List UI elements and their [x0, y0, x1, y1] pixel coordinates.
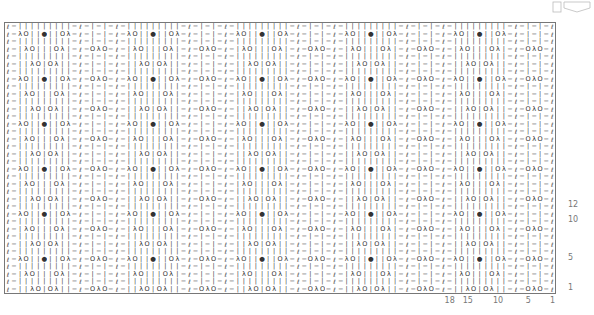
chart-row-9: ℓ−|λO|||Oλ|−ℓ−OλO−ℓ−|λO|||Oλ|−ℓ−OλO−ℓ−|λ…: [5, 226, 555, 234]
column-label: 10: [493, 296, 503, 305]
stitch-L: ℓ: [549, 23, 555, 31]
chart-row-20: ℓ−|||||||||−ℓ−|−|−ℓ−|||||||||−ℓ−|−|−ℓ−||…: [5, 143, 555, 151]
stitch-L: ℓ: [549, 53, 555, 61]
stitch-L: ℓ: [549, 278, 555, 286]
chart-row-19: ℓ−||λO|Oλ||−ℓ−|−|−ℓ−||λO|Oλ||−ℓ−|−|−ℓ−||…: [5, 151, 555, 159]
row-label: 5: [568, 253, 573, 262]
column-label: 5: [526, 296, 531, 305]
chart-row-4: ℓ−|||||||||−ℓ−|−|−ℓ−|||||||||−ℓ−|−|−ℓ−||…: [5, 263, 555, 271]
stitch-L: ℓ: [549, 256, 555, 264]
chart-row-24: ℓ−|||||||||−ℓ−|−|−ℓ−|||||||||−ℓ−|−|−ℓ−||…: [5, 113, 555, 121]
row-label: 1: [568, 283, 573, 292]
stitch-L: ℓ: [549, 143, 555, 151]
chart-row-17: ℓ−λO||●||Oλ−ℓ−OλO−ℓ−λO||●||Oλ−ℓ−OλO−ℓ−λO…: [5, 166, 555, 174]
chart-row-18: ℓ−|||||||||−ℓ−|−|−ℓ−|||||||||−ℓ−|−|−ℓ−||…: [5, 158, 555, 166]
chart-row-36: ℓ−|||||||||−ℓ−|−|−ℓ−|||||||||−ℓ−|−|−ℓ−||…: [5, 23, 555, 31]
chart-row-34: ℓ−|||||||||−ℓ−|−|−ℓ−|||||||||−ℓ−|−|−ℓ−||…: [5, 38, 555, 46]
chart-row-35: ℓ−λO||●||Oλ−ℓ−|−|−ℓ−λO||●||Oλ−ℓ−|−|−ℓ−λO…: [5, 31, 555, 39]
stitch-L: ℓ: [549, 248, 555, 256]
stitch-L: ℓ: [549, 173, 555, 181]
stitch-L: ℓ: [549, 68, 555, 76]
chart-row-10: ℓ−|||||||||−ℓ−|−|−ℓ−|||||||||−ℓ−|−|−ℓ−||…: [5, 218, 555, 226]
stitch-L: ℓ: [549, 211, 555, 219]
chart-repeat-icon: [552, 0, 592, 14]
chart-row-11: ℓ−λO||●||Oλ−ℓ−|−|−ℓ−λO||●||Oλ−ℓ−|−|−ℓ−λO…: [5, 211, 555, 219]
stitch-L: ℓ: [549, 271, 555, 279]
stitch-L: ℓ: [549, 151, 555, 159]
chart-row-22: ℓ−|||||||||−ℓ−|−|−ℓ−|||||||||−ℓ−|−|−ℓ−||…: [5, 128, 555, 136]
column-number-labels: 18151051: [0, 296, 594, 308]
chart-row-14: ℓ−|||||||||−ℓ−|−|−ℓ−|||||||||−ℓ−|−|−ℓ−||…: [5, 188, 555, 196]
chart-row-27: ℓ−|λO|||Oλ|−ℓ−|−|−ℓ−|λO|||Oλ|−ℓ−|−|−ℓ−|λ…: [5, 91, 555, 99]
stitch-L: ℓ: [549, 181, 555, 189]
column-label: 18: [445, 296, 455, 305]
stitch-L: ℓ: [549, 233, 555, 241]
chart-row-26: ℓ−|||||||||−ℓ−|−|−ℓ−|||||||||−ℓ−|−|−ℓ−||…: [5, 98, 555, 106]
chart-row-16: ℓ−|||||||||−ℓ−|−|−ℓ−|||||||||−ℓ−|−|−ℓ−||…: [5, 173, 555, 181]
chart-row-32: ℓ−|||||||||−ℓ−|−|−ℓ−|||||||||−ℓ−|−|−ℓ−||…: [5, 53, 555, 61]
stitch-L: ℓ: [549, 61, 555, 69]
chart-row-31: ℓ−||λO|Oλ||−ℓ−|−|−ℓ−||λO|Oλ||−ℓ−|−|−ℓ−||…: [5, 61, 555, 69]
stitch-L: ℓ: [549, 226, 555, 234]
row-label: 10: [568, 215, 578, 224]
chart-row-3: ℓ−|λO|||Oλ|−ℓ−|−|−ℓ−|λO|||Oλ|−ℓ−|−|−ℓ−|λ…: [5, 271, 555, 279]
chart-row-23: ℓ−λO||●||Oλ−ℓ−|−|−ℓ−λO||●||Oλ−ℓ−|−|−ℓ−λO…: [5, 121, 555, 129]
chart-row-2: ℓ−|||||||||−ℓ−|−|−ℓ−|||||||||−ℓ−|−|−ℓ−||…: [5, 278, 555, 286]
stitch-L: ℓ: [549, 98, 555, 106]
chart-row-7: ℓ−||λO|Oλ||−ℓ−|−|−ℓ−||λO|Oλ||−ℓ−|−|−ℓ−||…: [5, 241, 555, 249]
stitch-L: ℓ: [549, 203, 555, 211]
stitch-L: ℓ: [549, 166, 555, 174]
column-label: 1: [550, 296, 555, 305]
stitch-L: ℓ: [549, 188, 555, 196]
chart-row-12: ℓ−|||||||||−ℓ−|−|−ℓ−|||||||||−ℓ−|−|−ℓ−||…: [5, 203, 555, 211]
stitch-L: ℓ: [549, 91, 555, 99]
knitting-chart-grid: ℓ−|||||||||−ℓ−|−|−ℓ−|||||||||−ℓ−|−|−ℓ−||…: [4, 22, 556, 294]
stitch-L: ℓ: [549, 241, 555, 249]
chart-row-30: ℓ−|||||||||−ℓ−|−|−ℓ−|||||||||−ℓ−|−|−ℓ−||…: [5, 68, 555, 76]
stitch-L: ℓ: [549, 106, 555, 114]
column-label: 15: [463, 296, 473, 305]
chart-row-15: ℓ−|λO|||Oλ|−ℓ−|−|−ℓ−|λO|||Oλ|−ℓ−|−|−ℓ−|λ…: [5, 181, 555, 189]
stitch-L: ℓ: [549, 158, 555, 166]
chart-row-33: ℓ−|λO|||Oλ|−ℓ−OλO−ℓ−|λO|||Oλ|−ℓ−OλO−ℓ−|λ…: [5, 46, 555, 54]
stitch-L: ℓ: [549, 263, 555, 271]
stitch-L: ℓ: [549, 286, 555, 294]
row-label: 12: [568, 200, 578, 209]
chart-row-6: ℓ−|||||||||−ℓ−|−|−ℓ−|||||||||−ℓ−|−|−ℓ−||…: [5, 248, 555, 256]
stitch-L: ℓ: [549, 128, 555, 136]
chart-row-13: ℓ−||λO|Oλ||−ℓ−OλO−ℓ−||λO|Oλ||−ℓ−OλO−ℓ−||…: [5, 196, 555, 204]
chart-row-1: ℓ−||λO|Oλ||−ℓ−OλO−ℓ−||λO|Oλ||−ℓ−OλO−ℓ−||…: [5, 286, 555, 294]
chart-row-28: ℓ−|||||||||−ℓ−|−|−ℓ−|||||||||−ℓ−|−|−ℓ−||…: [5, 83, 555, 91]
stitch-L: ℓ: [549, 121, 555, 129]
stitch-L: ℓ: [549, 196, 555, 204]
stitch-L: ℓ: [549, 31, 555, 39]
stitch-L: ℓ: [549, 76, 555, 84]
stitch-L: ℓ: [549, 46, 555, 54]
chart-row-8: ℓ−|||||||||−ℓ−|−|−ℓ−|||||||||−ℓ−|−|−ℓ−||…: [5, 233, 555, 241]
chart-row-25: ℓ−||λO|Oλ||−ℓ−OλO−ℓ−||λO|Oλ||−ℓ−OλO−ℓ−||…: [5, 106, 555, 114]
stitch-L: ℓ: [549, 136, 555, 144]
stitch-L: ℓ: [549, 113, 555, 121]
stitch-L: ℓ: [549, 83, 555, 91]
chart-row-21: ℓ−|λO|||Oλ|−ℓ−OλO−ℓ−|λO|||Oλ|−ℓ−OλO−ℓ−|λ…: [5, 136, 555, 144]
stitch-L: ℓ: [549, 38, 555, 46]
stitch-L: ℓ: [549, 218, 555, 226]
chart-row-29: ℓ−λO||●||Oλ−ℓ−OλO−ℓ−λO||●||Oλ−ℓ−OλO−ℓ−λO…: [5, 76, 555, 84]
chart-row-5: ℓ−λO||●||Oλ−ℓ−OλO−ℓ−λO||●||Oλ−ℓ−OλO−ℓ−λO…: [5, 256, 555, 264]
